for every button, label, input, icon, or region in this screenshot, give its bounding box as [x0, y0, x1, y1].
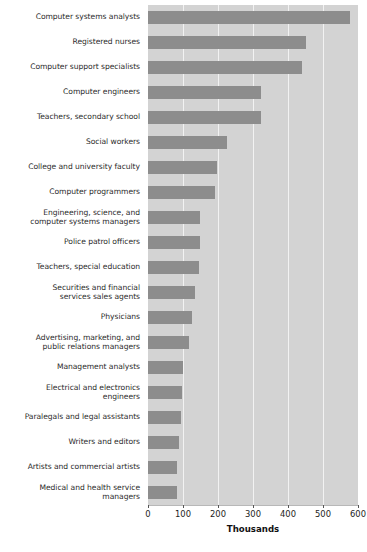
x-axis-tick-label: 200	[198, 509, 238, 519]
bar	[148, 186, 215, 199]
x-axis-tick-label: 500	[303, 509, 343, 519]
category-label: Writers and editors	[0, 437, 140, 446]
category-label: Computer engineers	[0, 87, 140, 96]
bar	[148, 411, 181, 424]
row-notch	[145, 343, 148, 344]
category-label-line: Engineering, science, and	[0, 208, 140, 217]
category-label: Artists and commercial artists	[0, 462, 140, 471]
category-label: Advertising, marketing, andpublic relati…	[0, 333, 140, 352]
category-label: Computer programmers	[0, 187, 140, 196]
category-label: Paralegals and legal assistants	[0, 412, 140, 421]
category-label: Registered nurses	[0, 37, 140, 46]
row-notch	[145, 193, 148, 194]
x-axis-tick-label: 300	[233, 509, 273, 519]
row-notch	[145, 243, 148, 244]
category-label-line: Computer programmers	[0, 187, 140, 196]
gridline	[183, 5, 184, 505]
row-notch	[145, 468, 148, 469]
x-axis-tick	[183, 505, 184, 508]
bar	[148, 161, 217, 174]
row-notch	[145, 368, 148, 369]
category-label: Securities and financialservices sales a…	[0, 283, 140, 302]
category-label-line: Computer engineers	[0, 87, 140, 96]
category-label-column: Computer systems analystsRegistered nurs…	[0, 5, 144, 505]
category-label: Management analysts	[0, 362, 140, 371]
bar	[148, 311, 192, 324]
row-notch	[145, 168, 148, 169]
x-axis-tick	[253, 505, 254, 508]
row-notch	[145, 218, 148, 219]
x-axis-tick-label: 100	[163, 509, 203, 519]
x-axis-tick	[288, 505, 289, 508]
category-label: Social workers	[0, 137, 140, 146]
category-label: Police patrol officers	[0, 237, 140, 246]
bar	[148, 361, 183, 374]
bar	[148, 111, 261, 124]
category-label: Teachers, special education	[0, 262, 140, 271]
category-label-line: public relations managers	[0, 342, 140, 351]
bar	[148, 386, 182, 399]
category-label: College and university faculty	[0, 162, 140, 171]
category-label-line: Registered nurses	[0, 37, 140, 46]
gridline	[323, 5, 324, 505]
category-label-line: Advertising, marketing, and	[0, 333, 140, 342]
bar	[148, 211, 200, 224]
row-notch	[145, 418, 148, 419]
category-label-line: managers	[0, 492, 140, 501]
row-notch	[145, 493, 148, 494]
bar	[148, 236, 200, 249]
category-label-line: Computer systems analysts	[0, 12, 140, 21]
x-axis-tick	[218, 505, 219, 508]
row-notch	[145, 293, 148, 294]
category-label: Electrical and electronicsengineers	[0, 383, 140, 402]
row-notch	[145, 318, 148, 319]
category-label-line: Medical and health service	[0, 483, 140, 492]
gridline	[218, 5, 219, 505]
category-label: Medical and health servicemanagers	[0, 483, 140, 502]
x-axis-tick-label: 0	[128, 509, 168, 519]
bar	[148, 286, 195, 299]
category-label: Engineering, science, andcomputer system…	[0, 208, 140, 227]
x-axis-tick	[358, 505, 359, 508]
category-label: Teachers, secondary school	[0, 112, 140, 121]
plot-area	[148, 5, 358, 505]
row-notch	[145, 18, 148, 19]
row-notch	[145, 118, 148, 119]
row-notch	[145, 143, 148, 144]
category-label-line: Physicians	[0, 312, 140, 321]
category-label-line: Teachers, special education	[0, 262, 140, 271]
row-notch	[145, 443, 148, 444]
category-label-line: Paralegals and legal assistants	[0, 412, 140, 421]
bar	[148, 261, 199, 274]
category-label-line: Management analysts	[0, 362, 140, 371]
category-label-line: Electrical and electronics	[0, 383, 140, 392]
row-notch	[145, 93, 148, 94]
category-label: Computer support specialists	[0, 62, 140, 71]
row-notch	[145, 268, 148, 269]
row-notch	[145, 68, 148, 69]
x-axis-tick	[148, 505, 149, 508]
bar	[148, 336, 189, 349]
category-label-line: Artists and commercial artists	[0, 462, 140, 471]
category-label-line: Writers and editors	[0, 437, 140, 446]
category-label-line: engineers	[0, 392, 140, 401]
bar	[148, 86, 261, 99]
category-label-line: computer systems managers	[0, 217, 140, 226]
category-label-line: Teachers, secondary school	[0, 112, 140, 121]
row-notch	[145, 393, 148, 394]
horizontal-bar-chart: Computer systems analystsRegistered nurs…	[0, 0, 367, 552]
row-notch	[145, 43, 148, 44]
x-axis-tick-label: 400	[268, 509, 308, 519]
bar	[148, 11, 350, 24]
gridline	[288, 5, 289, 505]
x-axis-tick	[323, 505, 324, 508]
category-label: Computer systems analysts	[0, 12, 140, 21]
bar	[148, 136, 227, 149]
bar	[148, 461, 177, 474]
x-axis-tick-label: 600	[338, 509, 367, 519]
category-label-line: services sales agents	[0, 292, 140, 301]
bar	[148, 436, 179, 449]
category-label-line: Social workers	[0, 137, 140, 146]
gridline	[253, 5, 254, 505]
category-label: Physicians	[0, 312, 140, 321]
